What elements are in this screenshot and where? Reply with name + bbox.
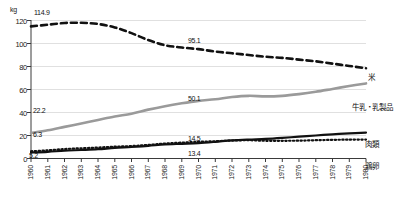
legend-label-meat: 肉類 bbox=[365, 138, 379, 149]
data-label-eggs-1960: 6.3 bbox=[33, 131, 42, 138]
x-tick-1960: 1960 bbox=[27, 165, 34, 180]
x-tick-1971: 1971 bbox=[211, 165, 218, 180]
series-line-rice bbox=[31, 23, 366, 69]
x-tick-1976: 1976 bbox=[295, 165, 302, 180]
series-line-dairy bbox=[31, 83, 366, 133]
x-tick-1964: 1964 bbox=[94, 165, 101, 180]
y-axis-ticks bbox=[27, 21, 31, 159]
data-label-meat-1970: 13.4 bbox=[188, 150, 200, 157]
x-tick-1972: 1972 bbox=[228, 165, 235, 180]
x-tick-1970: 1970 bbox=[195, 165, 202, 180]
x-tick-1961: 1961 bbox=[44, 165, 51, 180]
x-tick-1966: 1966 bbox=[128, 165, 135, 180]
x-tick-1973: 1973 bbox=[245, 165, 252, 180]
chart-plot-svg bbox=[0, 0, 394, 212]
x-axis-ticks bbox=[31, 159, 366, 163]
x-tick-1980: 1980 bbox=[362, 165, 369, 180]
data-label-eggs-1970: 14.5 bbox=[188, 135, 200, 142]
x-tick-1962: 1962 bbox=[61, 165, 68, 180]
x-tick-1963: 1963 bbox=[77, 165, 84, 180]
x-tick-1975: 1975 bbox=[278, 165, 285, 180]
data-label-dairy-1970: 50.1 bbox=[188, 95, 200, 102]
data-label-rice-1960: 114.9 bbox=[34, 9, 50, 16]
chart-container: kg 120 100 80 60 40 20 0 bbox=[0, 0, 394, 212]
x-tick-1965: 1965 bbox=[111, 165, 118, 180]
x-tick-1968: 1968 bbox=[161, 165, 168, 180]
x-tick-1979: 1979 bbox=[345, 165, 352, 180]
data-label-rice-1970: 95.1 bbox=[188, 37, 200, 44]
legend-label-rice: 米 bbox=[368, 71, 375, 82]
x-tick-1977: 1977 bbox=[312, 165, 319, 180]
legend-label-dairy: 牛乳・乳製品 bbox=[352, 101, 393, 112]
x-tick-1978: 1978 bbox=[329, 165, 336, 180]
data-label-meat-1960: 5.2 bbox=[29, 152, 38, 159]
x-tick-1969: 1969 bbox=[178, 165, 185, 180]
x-tick-1974: 1974 bbox=[262, 165, 269, 180]
x-tick-1967: 1967 bbox=[144, 165, 151, 180]
data-label-dairy-1960: 22.2 bbox=[33, 107, 45, 114]
